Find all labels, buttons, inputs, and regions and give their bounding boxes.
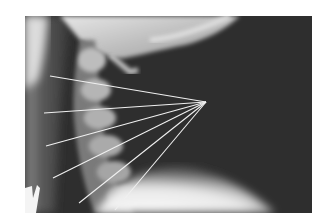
xray-image: [25, 16, 312, 213]
figure-canvas: [0, 0, 330, 220]
